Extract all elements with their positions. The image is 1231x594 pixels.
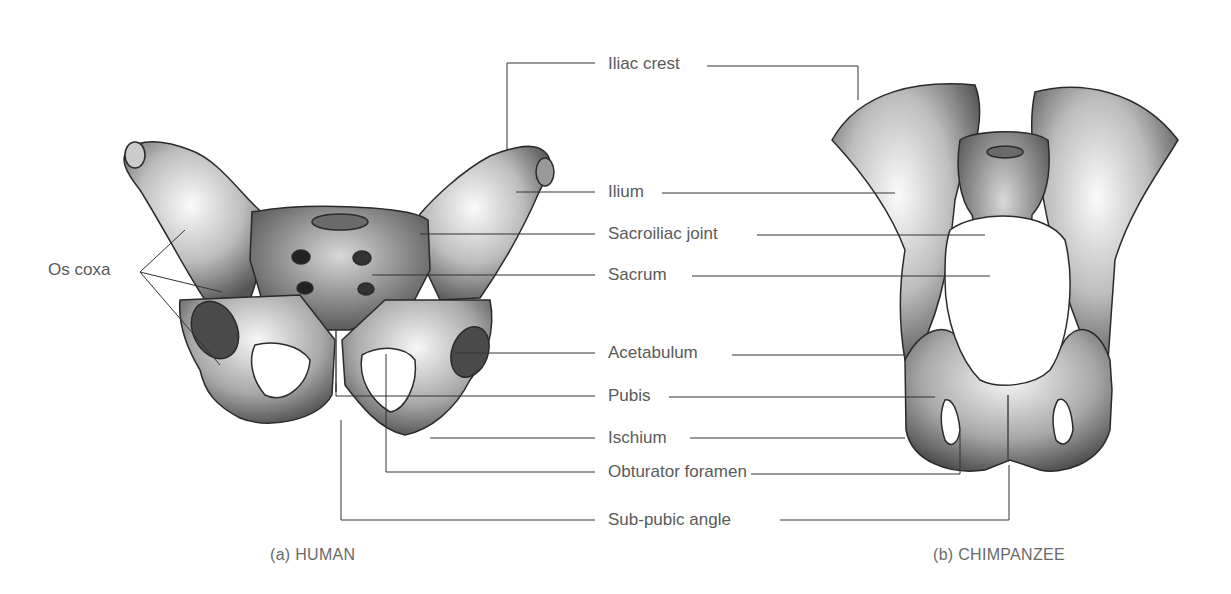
figure-artwork (0, 0, 1231, 594)
label-sacrum: Sacrum (604, 265, 671, 285)
label-ischium: Ischium (604, 428, 671, 448)
label-sacroiliac-joint: Sacroiliac joint (604, 224, 722, 244)
caption-chimpanzee: (b) CHIMPANZEE (933, 546, 1065, 564)
label-iliac-crest: Iliac crest (604, 54, 684, 74)
label-os-coxa: Os coxa (44, 260, 114, 280)
caption-human: (a) HUMAN (270, 546, 355, 564)
pelvis-comparison-figure: Os coxa Iliac crest Ilium Sacroiliac joi… (0, 0, 1231, 594)
label-obturator-foramen: Obturator foramen (604, 462, 751, 482)
label-acetabulum: Acetabulum (604, 343, 702, 363)
label-ilium: Ilium (604, 182, 648, 202)
human-pelvis-illustration (124, 142, 554, 435)
label-pubis: Pubis (604, 386, 655, 406)
label-sub-pubic-angle: Sub-pubic angle (604, 510, 735, 530)
chimpanzee-pelvis-illustration (832, 84, 1178, 471)
